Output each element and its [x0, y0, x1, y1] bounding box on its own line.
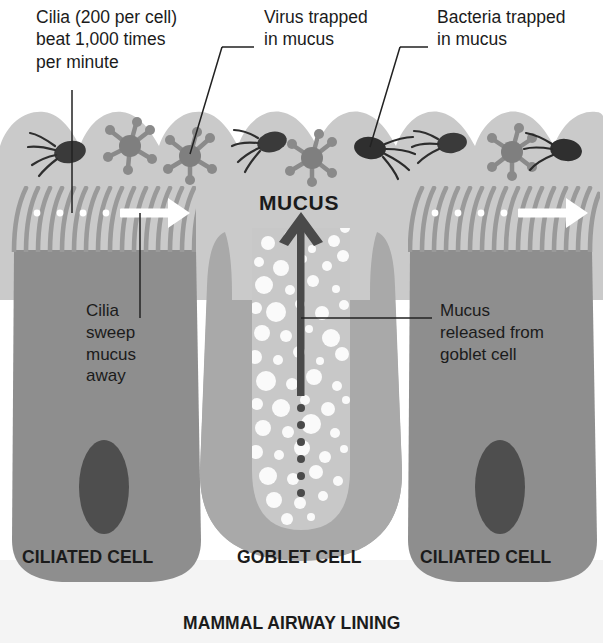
nucleus-right [475, 440, 525, 534]
label-cilia-sweep: Cilia sweep mucus away [86, 300, 136, 387]
label-cilia-count: Cilia (200 per cell) beat 1,000 times pe… [36, 6, 177, 73]
label-virus-trapped: Virus trapped in mucus [264, 6, 368, 51]
label-ciliated-cell-right: CILIATED CELL [420, 546, 551, 568]
nucleus-left [79, 440, 129, 534]
label-goblet-cell: GOBLET CELL [237, 546, 362, 568]
label-mucus-arrow: MUCUS [259, 190, 339, 217]
label-ciliated-cell-left: CILIATED CELL [22, 546, 153, 568]
diagram-canvas: Cilia (200 per cell) beat 1,000 times pe… [0, 0, 603, 643]
label-mammal-airway-lining: MAMMAL AIRWAY LINING [183, 612, 401, 634]
label-bacteria-trapped: Bacteria trapped in mucus [437, 6, 565, 51]
label-mucus-released: Mucus released from goblet cell [440, 300, 544, 365]
